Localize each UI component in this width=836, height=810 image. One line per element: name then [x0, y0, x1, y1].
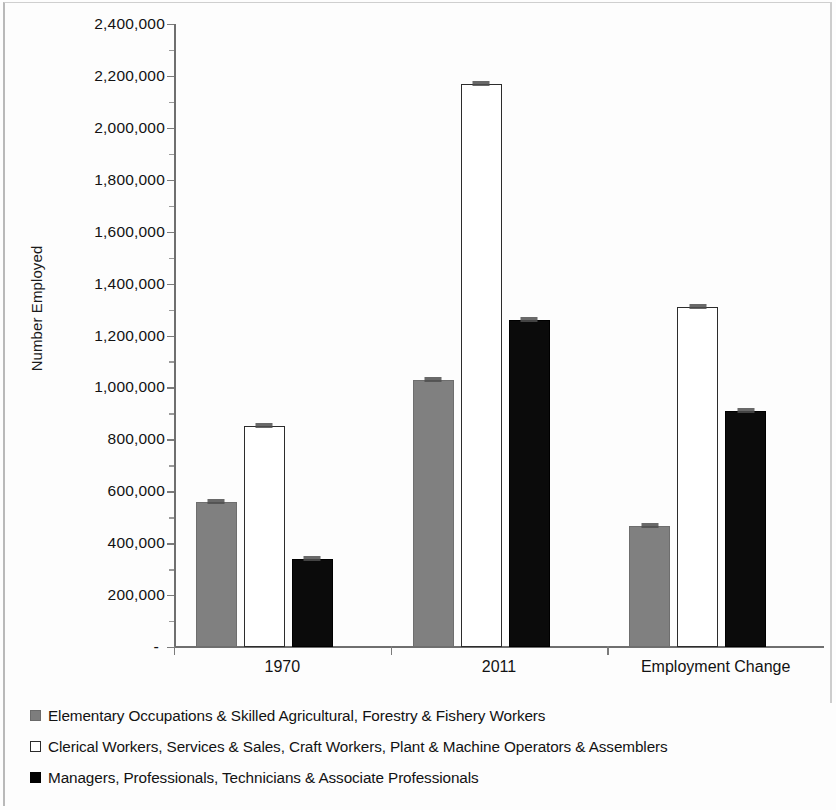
y-axis-tick-label: 1,000,000 — [5, 378, 165, 396]
bar — [244, 426, 285, 647]
x-axis-category-label: Employment Change — [641, 658, 790, 676]
legend-swatch-icon — [30, 741, 41, 752]
y-axis-tick-label: 1,200,000 — [5, 327, 165, 345]
legend-swatch-icon — [30, 710, 41, 721]
bar — [725, 411, 766, 647]
bar — [509, 320, 550, 647]
chart-page: Number Employed -200,000400,000600,00080… — [0, 0, 836, 810]
bar-top-marker — [521, 317, 538, 322]
bar-top-marker — [208, 499, 225, 504]
bar-top-marker — [256, 423, 273, 428]
y-axis-tick-label: 400,000 — [5, 534, 165, 552]
legend-label: Clerical Workers, Services & Sales, Craf… — [48, 738, 668, 756]
legend-item[interactable]: Clerical Workers, Services & Sales, Craf… — [30, 731, 830, 762]
y-axis-tick-label: 200,000 — [5, 586, 165, 604]
x-axis-category-label: 1970 — [265, 658, 301, 676]
bar — [196, 502, 237, 647]
bar — [413, 380, 454, 647]
bar — [461, 84, 502, 647]
y-axis-tick-label: 1,600,000 — [5, 223, 165, 241]
x-axis-category-label: 2011 — [482, 658, 516, 676]
bar — [677, 307, 718, 647]
bar-chart: Number Employed -200,000400,000600,00080… — [0, 0, 836, 690]
bar-top-marker — [473, 81, 490, 86]
bar-top-marker — [641, 523, 658, 528]
bar-top-marker — [304, 556, 321, 561]
y-axis-tick-label: - — [0, 638, 165, 656]
y-axis-tick-label: 2,200,000 — [5, 67, 165, 85]
bar-top-marker — [425, 377, 442, 382]
y-axis-tick-label: 2,000,000 — [5, 119, 165, 137]
legend-label: Managers, Professionals, Technicians & A… — [48, 769, 479, 787]
y-axis-tick-label: 600,000 — [5, 482, 165, 500]
plot-area — [174, 24, 824, 647]
y-axis-tick-label: 2,400,000 — [5, 15, 165, 33]
y-axis-tick-label: 1,400,000 — [5, 275, 165, 293]
bar — [629, 526, 670, 647]
legend-swatch-icon — [30, 772, 41, 783]
chart-legend: Elementary Occupations & Skilled Agricul… — [30, 700, 830, 793]
x-axis-category-tick — [391, 646, 392, 655]
y-axis-tick-label: 1,800,000 — [5, 171, 165, 189]
bar-top-marker — [737, 408, 754, 413]
y-axis-tick-label: 800,000 — [5, 430, 165, 448]
legend-item[interactable]: Managers, Professionals, Technicians & A… — [30, 762, 830, 793]
legend-item[interactable]: Elementary Occupations & Skilled Agricul… — [30, 700, 830, 731]
bar — [292, 559, 333, 647]
x-axis-category-tick — [607, 646, 608, 655]
x-axis-origin-tick — [174, 646, 175, 655]
y-axis-tick-labels: -200,000400,000600,000800,0001,000,0001,… — [0, 0, 165, 690]
bar-top-marker — [689, 304, 706, 309]
legend-label: Elementary Occupations & Skilled Agricul… — [48, 707, 545, 725]
